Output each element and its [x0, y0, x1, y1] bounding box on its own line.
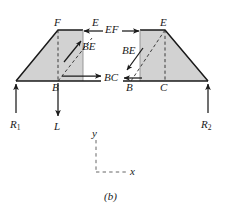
left-truss-section — [16, 30, 101, 81]
free-body-diagram-figure: F E EF E BE BE B BC B C R1 L R2 y x (b) — [0, 0, 225, 213]
label-axis-y: y — [92, 128, 97, 139]
right-section-fill — [140, 30, 208, 81]
label-axis-x: x — [130, 166, 135, 177]
label-joint-B-right: B — [126, 82, 133, 93]
left-section-fill — [16, 30, 83, 81]
label-force-EF-center: EF — [105, 24, 118, 35]
label-load-L: L — [54, 121, 60, 132]
right-truss-section — [123, 30, 208, 81]
label-reaction-R2: R2 — [201, 119, 211, 130]
label-joint-E-right: E — [160, 17, 167, 28]
label-reaction-R1-subscript: 1 — [17, 123, 21, 132]
label-joint-F-left: F — [54, 17, 61, 28]
label-force-BE-left: BE — [82, 41, 95, 52]
label-force-BE-right: BE — [122, 45, 135, 56]
figure-caption: (b) — [104, 190, 117, 202]
label-reaction-R1: R1 — [10, 119, 20, 130]
label-force-BC-center: BC — [104, 72, 118, 83]
coordinate-axes — [96, 140, 128, 172]
label-reaction-R1-base: R — [10, 118, 17, 130]
label-reaction-R2-base: R — [201, 118, 208, 130]
label-reaction-R2-subscript: 2 — [208, 123, 212, 132]
label-joint-C-right: C — [160, 82, 167, 93]
label-force-E-top-left: E — [92, 17, 99, 28]
label-joint-B-left: B — [52, 82, 59, 93]
